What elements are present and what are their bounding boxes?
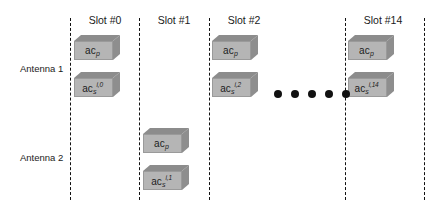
slot-header-2: Slot #2 [228, 14, 261, 26]
packet-box-a1-slot14-pilot: acp [348, 35, 394, 60]
packet-front-face: acp [74, 41, 113, 60]
packet-label: acp [359, 45, 374, 57]
ellipsis-dot-1 [291, 90, 299, 98]
packet-label: acp [154, 138, 169, 150]
slot-divider-0 [70, 18, 71, 200]
packet-front-face: acsi,2 [212, 78, 251, 97]
antenna-label-0: Antenna 1 [20, 63, 63, 74]
packet-box-a1-slot2-signal: acsi,2 [212, 72, 258, 97]
packet-front-face: acsi,1 [143, 171, 182, 190]
packet-box-a2-slot1-pilot: acp [143, 128, 189, 153]
packet-label: acsi,1 [151, 174, 172, 188]
packet-box-a1-slot0-pilot: acp [74, 35, 120, 60]
packet-box-a1-slot0-signal: acsi,0 [74, 72, 120, 97]
slot-header-0: Slot #0 [89, 14, 122, 26]
packet-label: acsi,2 [220, 81, 241, 95]
slot-divider-3 [345, 18, 346, 200]
packet-front-face: acp [212, 41, 251, 60]
packet-front-face: acp [348, 41, 387, 60]
packet-front-face: acsi,14 [348, 78, 387, 97]
packet-label: acsi,14 [354, 81, 378, 95]
packet-front-face: acp [143, 134, 182, 153]
packet-label: acsi,0 [82, 81, 103, 95]
packet-box-a1-slot14-signal: acsi,14 [348, 72, 394, 97]
slot-divider-2 [209, 18, 210, 200]
ellipsis-dot-2 [308, 90, 316, 98]
slot-structure-diagram: Slot #0Slot #1Slot #2Slot #14 Antenna 1A… [0, 0, 447, 210]
antenna-label-1: Antenna 2 [20, 152, 63, 163]
packet-box-a2-slot1-signal: acsi,1 [143, 165, 189, 190]
ellipsis-dot-4 [342, 90, 350, 98]
packet-label: acp [85, 45, 100, 57]
packet-front-face: acsi,0 [74, 78, 113, 97]
slot-header-3: Slot #14 [364, 14, 403, 26]
slot-divider-4 [424, 18, 425, 200]
packet-box-a1-slot2-pilot: acp [212, 35, 258, 60]
slot-divider-1 [139, 18, 140, 200]
packet-label: acp [223, 45, 238, 57]
slot-header-1: Slot #1 [158, 14, 191, 26]
ellipsis-dot-0 [274, 90, 282, 98]
ellipsis-dot-3 [325, 90, 333, 98]
